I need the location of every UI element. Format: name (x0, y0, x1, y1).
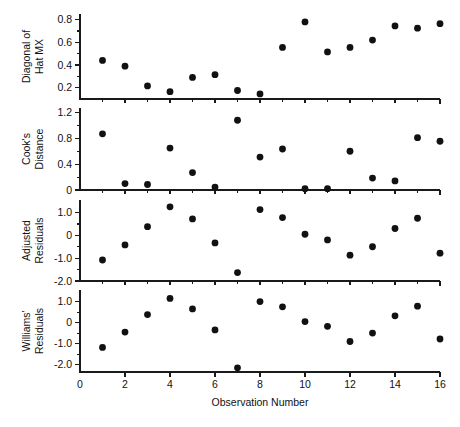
data-point (189, 169, 196, 176)
x-tick-label: 16 (434, 378, 446, 390)
y-axis-title: Hat MX (33, 39, 45, 74)
data-point (437, 250, 444, 257)
data-point (437, 336, 444, 343)
y-axis-title: Residuals (33, 217, 45, 263)
data-point (99, 344, 106, 351)
data-point (99, 130, 106, 137)
data-point (369, 37, 376, 44)
data-point (144, 181, 151, 188)
data-point (167, 88, 174, 95)
data-point (437, 138, 444, 145)
y-tick-label: 0 (66, 229, 72, 241)
data-point (369, 243, 376, 250)
x-tick-label: 6 (212, 378, 218, 390)
data-point (234, 117, 241, 124)
data-point (414, 25, 421, 32)
y-tick-label: -1.0 (54, 337, 72, 349)
y-tick-label: 1.2 (57, 106, 72, 118)
data-point (212, 71, 219, 78)
y-axis-title: Distance (33, 128, 45, 169)
data-point (437, 20, 444, 27)
data-point (414, 134, 421, 141)
panel-axis-line (80, 14, 440, 99)
data-point (122, 180, 129, 187)
y-tick-label: 0.4 (57, 59, 72, 71)
data-point (392, 23, 399, 30)
x-tick-label: 4 (167, 378, 173, 390)
data-point (392, 312, 399, 319)
data-point (122, 242, 129, 249)
data-point (167, 295, 174, 302)
data-point (189, 74, 196, 81)
data-point (212, 327, 219, 334)
x-tick-label: 14 (389, 378, 401, 390)
data-point (414, 215, 421, 222)
data-point (144, 311, 151, 318)
diagnostic-plot-figure: 0.20.40.60.8Diagonal ofHat MX00.40.81.2C… (0, 0, 460, 427)
data-point (347, 44, 354, 51)
data-point (212, 239, 219, 246)
chart-panel-0: 0.20.40.60.8Diagonal ofHat MX (20, 13, 443, 104)
data-point (369, 175, 376, 182)
data-point (392, 178, 399, 185)
data-point (324, 49, 331, 56)
data-point (167, 203, 174, 210)
x-tick-label: 10 (299, 378, 311, 390)
data-point (279, 44, 286, 51)
data-point (324, 323, 331, 330)
data-point (212, 184, 219, 191)
y-tick-label: 0 (66, 316, 72, 328)
data-point (279, 214, 286, 221)
y-tick-label: 0.8 (57, 13, 72, 25)
y-axis-title: Cook's (20, 133, 32, 165)
y-tick-label: -2.0 (54, 275, 72, 287)
data-point (324, 237, 331, 244)
data-point (257, 154, 264, 161)
x-tick-label: 0 (77, 378, 83, 390)
data-point (234, 87, 241, 94)
data-point (99, 57, 106, 64)
data-point (369, 330, 376, 337)
data-point (257, 91, 264, 98)
data-point (144, 83, 151, 90)
data-point (302, 185, 309, 192)
data-point (234, 364, 241, 371)
x-tick-label: 12 (344, 378, 356, 390)
data-point (257, 206, 264, 213)
y-tick-label: 0 (66, 184, 72, 196)
data-point (302, 231, 309, 238)
panel-axis-line (80, 108, 440, 190)
y-tick-label: 0.4 (57, 158, 72, 170)
data-point (347, 252, 354, 259)
y-axis-title: Adjusted (20, 220, 32, 261)
data-point (414, 303, 421, 310)
chart-panel-2: -2.0-1.001.0AdjustedResiduals (20, 200, 443, 287)
data-point (189, 306, 196, 313)
data-point (279, 303, 286, 310)
y-tick-label: -1.0 (54, 252, 72, 264)
data-point (189, 216, 196, 223)
data-point (167, 145, 174, 152)
x-axis-title: Observation Number (212, 396, 309, 408)
x-tick-label: 8 (257, 378, 263, 390)
data-point (279, 146, 286, 153)
y-axis-title: Williams' (20, 310, 32, 351)
data-point (347, 338, 354, 345)
data-point (99, 257, 106, 264)
chart-panel-3: -2.0-1.001.02468101214160Williams'Residu… (20, 290, 446, 408)
y-tick-label: 1.0 (57, 206, 72, 218)
data-point (122, 63, 129, 70)
data-point (122, 329, 129, 336)
data-point (234, 269, 241, 276)
data-point (302, 19, 309, 26)
y-axis-title: Residuals (33, 308, 45, 354)
data-point (324, 185, 331, 192)
data-point (144, 223, 151, 230)
data-point (392, 225, 399, 232)
chart-panel-1: 00.40.81.2Cook'sDistance (20, 106, 443, 195)
data-point (257, 298, 264, 305)
x-tick-label: 2 (122, 378, 128, 390)
y-tick-label: 1.0 (57, 295, 72, 307)
data-point (347, 148, 354, 155)
y-tick-label: -2.0 (54, 358, 72, 370)
